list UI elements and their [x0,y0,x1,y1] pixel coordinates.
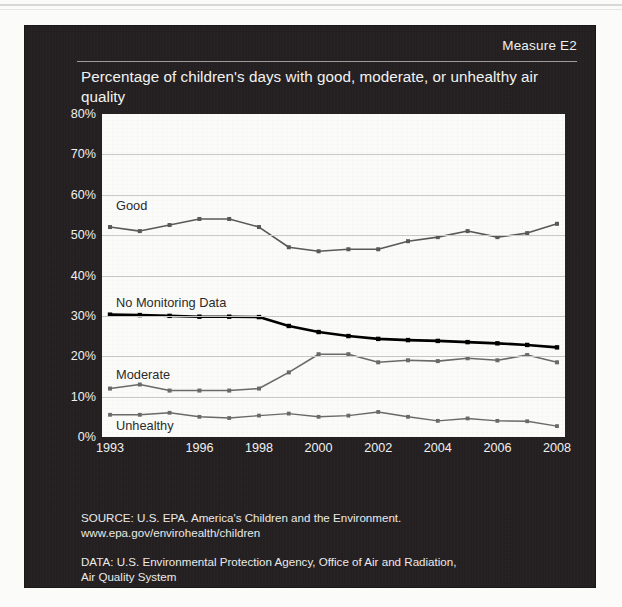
series-marker [466,417,470,421]
x-axis-tick-label: 1993 [96,441,124,455]
series-marker [346,334,350,338]
x-axis-tick-label: 2002 [364,441,392,455]
series-marker [496,419,500,423]
gridline [102,154,565,155]
y-axis-tick-label: 50% [50,228,96,242]
series-line [110,412,557,426]
header-divider [77,61,577,62]
series-marker [495,358,499,362]
x-axis-labels: 19931996199820002002200420062008 [102,441,565,463]
y-axis-tick-label: 20% [50,349,96,363]
series-marker [347,414,351,418]
series-marker [495,341,499,345]
series-marker [138,229,142,233]
series-marker [555,222,559,226]
series-line [110,315,557,348]
y-axis-tick-label: 10% [50,390,96,404]
source-note-line1: SOURCE: U.S. EPA. America's Children and… [81,510,581,525]
series-marker [287,370,291,374]
series-marker [376,337,380,341]
gridline [102,235,565,236]
plot-area: GoodNo Monitoring DataModerateUnhealthy [102,114,565,437]
series-label-unhealthy: Unhealthy [116,418,174,433]
y-axis-tick-label: 0% [50,430,96,444]
series-marker [436,359,440,363]
series-marker [317,415,321,419]
gridline [102,316,565,317]
series-marker [198,415,202,419]
x-axis-tick-label: 2004 [424,441,452,455]
chart-title: Percentage of children's days with good,… [81,67,573,106]
series-marker [287,412,291,416]
series-marker [346,247,350,251]
series-marker [227,416,231,420]
series-marker [436,339,440,343]
series-marker [108,413,112,417]
gridline [102,276,565,277]
series-line [110,354,557,390]
series-marker [168,223,172,227]
scan-edge-line-1 [0,4,622,6]
x-axis-tick-label: 2000 [305,441,333,455]
series-marker [525,343,529,347]
series-marker [257,387,261,391]
series-label-good: Good [116,198,147,213]
series-marker [197,217,201,221]
series-marker [108,387,112,391]
series-marker [197,389,201,393]
series-marker [555,424,559,428]
series-marker [257,414,261,418]
page-canvas: Measure E2 Percentage of children's days… [0,0,622,607]
series-marker [406,415,410,419]
series-marker [555,345,559,349]
series-marker [406,239,410,243]
series-marker [317,249,321,253]
series-marker [138,413,142,417]
series-marker [376,410,380,414]
series-label-no_monitoring: No Monitoring Data [116,295,226,310]
data-note: DATA: U.S. Environmental Protection Agen… [81,554,581,584]
series-marker [138,383,142,387]
series-marker [257,225,261,229]
data-note-line1: DATA: U.S. Environmental Protection Agen… [81,554,581,569]
x-axis-tick-label: 1996 [185,441,213,455]
series-marker [406,358,410,362]
x-axis-tick-label: 1998 [245,441,273,455]
y-axis-tick-label: 60% [50,188,96,202]
series-marker [376,360,380,364]
y-axis-tick-label: 40% [50,269,96,283]
series-marker [108,225,112,229]
source-note: SOURCE: U.S. EPA. America's Children and… [81,510,581,540]
series-label-moderate: Moderate [116,367,170,382]
y-axis-tick-label: 30% [50,309,96,323]
x-axis-tick-label: 2008 [543,441,571,455]
series-marker [287,324,291,328]
source-note-line2: www.epa.gov/envirohealth/children [81,525,581,540]
series-marker [168,411,172,415]
data-note-line2: Air Quality System [81,569,581,584]
series-marker [466,229,470,233]
gridline [102,195,565,196]
series-marker [465,340,469,344]
gridline [102,356,565,357]
series-marker [436,419,440,423]
series-marker [406,338,410,342]
series-marker [555,360,559,364]
y-axis-tick-label: 70% [50,147,96,161]
series-marker [376,247,380,251]
series-marker [227,389,231,393]
gridline [102,397,565,398]
x-axis-tick-label: 2006 [483,441,511,455]
series-marker [525,419,529,423]
measure-label: Measure E2 [502,38,577,53]
series-marker [168,389,172,393]
series-marker [287,245,291,249]
scan-edge-line-2 [0,9,622,10]
y-axis-tick-label: 80% [50,107,96,121]
series-marker [227,217,231,221]
y-axis-labels: 0%10%20%30%40%50%60%70%80% [40,114,96,437]
series-marker [316,330,320,334]
